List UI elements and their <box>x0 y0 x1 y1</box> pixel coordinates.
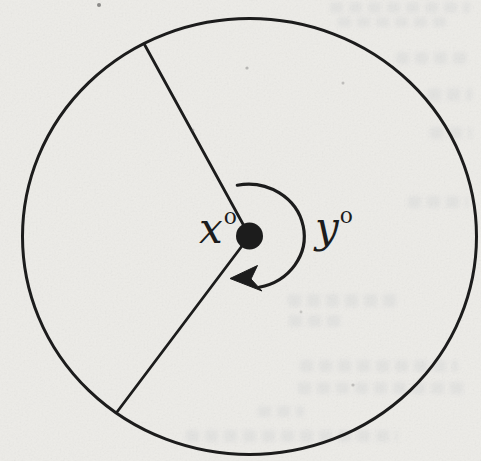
circle-reflex-angle-diagram <box>0 0 481 461</box>
angle-y-degree-mark: o <box>340 203 353 228</box>
angle-x-label: xo <box>199 206 237 250</box>
radius-lower <box>117 236 250 412</box>
center-dot <box>236 223 263 250</box>
angle-x-degree-mark: o <box>224 204 237 229</box>
angle-x-letter: x <box>199 204 223 253</box>
arc-arrowhead-icon <box>230 266 262 292</box>
angle-y-letter: y <box>315 203 339 252</box>
scanned-textbook-page: xo yo <box>0 0 481 461</box>
angle-y-label: yo <box>315 205 353 249</box>
